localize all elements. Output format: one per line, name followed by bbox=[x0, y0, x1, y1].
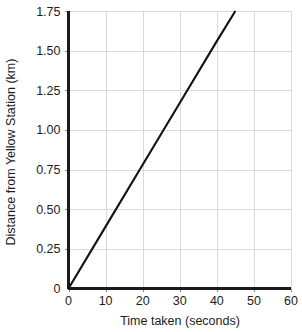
x-tick-label: 60 bbox=[284, 294, 298, 308]
x-axis-title: Time taken (seconds) bbox=[120, 314, 240, 328]
chart-canvas: 00.250.500.751.001.251.501.75 0102030405… bbox=[0, 0, 302, 332]
y-tick-label: 1.50 bbox=[36, 44, 60, 58]
y-tick-label: 0 bbox=[54, 282, 61, 296]
y-axis-title: Distance from Yellow Station (km) bbox=[4, 59, 18, 246]
x-tick-label: 10 bbox=[99, 294, 113, 308]
y-tick-label: 1.25 bbox=[36, 84, 60, 98]
x-tick-label: 30 bbox=[173, 294, 187, 308]
y-tick-label: 0.25 bbox=[36, 242, 60, 256]
y-tick-label: 0.50 bbox=[36, 203, 60, 217]
x-tick-label: 20 bbox=[136, 294, 150, 308]
x-tick-label: 0 bbox=[65, 294, 72, 308]
y-tick-label: 0.75 bbox=[36, 163, 60, 177]
x-tick-label: 50 bbox=[247, 294, 261, 308]
x-tick-label: 40 bbox=[210, 294, 224, 308]
y-tick-label: 1.75 bbox=[36, 5, 60, 19]
y-tick-label: 1.00 bbox=[36, 123, 60, 137]
distance-time-chart: 00.250.500.751.001.251.501.75 0102030405… bbox=[0, 0, 302, 332]
